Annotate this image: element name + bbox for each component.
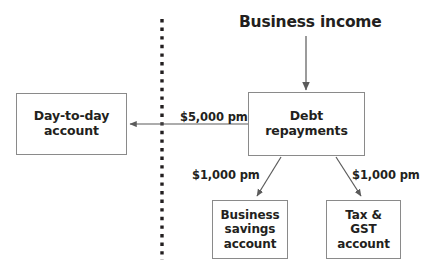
node-day-to-day-account-label: Day-to-day account	[34, 109, 110, 139]
node-debt-repayments: Debt repayments	[248, 92, 365, 156]
diagram-title: Business income	[239, 13, 382, 31]
node-tax-gst-account-label: Tax & GST account	[337, 208, 390, 250]
node-debt-repayments-label: Debt repayments	[265, 109, 348, 139]
edge-debt-to-business-savings	[257, 157, 281, 196]
node-business-savings-account: Business savings account	[212, 200, 288, 259]
node-tax-gst-account: Tax & GST account	[326, 200, 401, 259]
edge-label-debt-to-day-to-day: $5,000 pm	[180, 110, 248, 124]
edge-label-debt-to-tax-gst: $1,000 pm	[352, 168, 420, 182]
node-day-to-day-account: Day-to-day account	[16, 93, 127, 155]
node-business-savings-account-label: Business savings account	[220, 208, 279, 250]
flow-diagram: Business income Day-to-day account Debt …	[0, 0, 429, 271]
edge-label-debt-to-business-savings: $1,000 pm	[192, 168, 260, 182]
